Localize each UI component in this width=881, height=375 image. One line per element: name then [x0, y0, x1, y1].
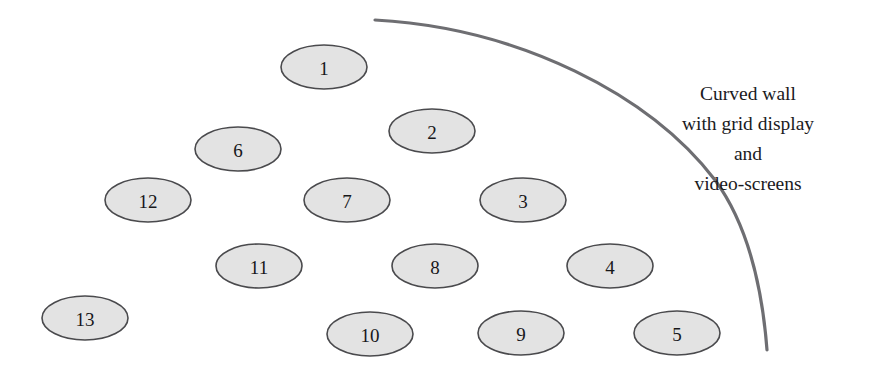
seat-ellipse[interactable]	[42, 296, 128, 340]
seat-9[interactable]: 9	[478, 311, 564, 355]
annotation-line-2: with grid display	[682, 113, 814, 134]
seat-ellipse[interactable]	[105, 178, 191, 222]
seat-11[interactable]: 11	[216, 244, 302, 288]
seat-8[interactable]: 8	[392, 244, 478, 288]
diagram-canvas: 12345678910111213 Curved wallwith grid d…	[0, 0, 881, 375]
seat-6[interactable]: 6	[195, 127, 281, 171]
seating-diagram: 12345678910111213 Curved wallwith grid d…	[0, 0, 881, 375]
seat-ellipse[interactable]	[480, 178, 566, 222]
seat-4[interactable]: 4	[567, 244, 653, 288]
seat-ellipse[interactable]	[478, 311, 564, 355]
seat-1[interactable]: 1	[281, 45, 367, 89]
seat-3[interactable]: 3	[480, 178, 566, 222]
annotation-line-1: Curved wall	[700, 83, 796, 104]
seat-ellipse[interactable]	[216, 244, 302, 288]
seat-ellipse[interactable]	[389, 109, 475, 153]
seat-ellipse[interactable]	[281, 45, 367, 89]
seat-ellipse[interactable]	[634, 311, 720, 355]
annotation-line-3: and	[734, 143, 762, 164]
seat-2[interactable]: 2	[389, 109, 475, 153]
seat-ellipse[interactable]	[392, 244, 478, 288]
seat-12[interactable]: 12	[105, 178, 191, 222]
seat-group: 12345678910111213	[42, 45, 720, 356]
seat-13[interactable]: 13	[42, 296, 128, 340]
seat-5[interactable]: 5	[634, 311, 720, 355]
seat-ellipse[interactable]	[195, 127, 281, 171]
seat-ellipse[interactable]	[304, 178, 390, 222]
seat-ellipse[interactable]	[567, 244, 653, 288]
wall-annotation: Curved wallwith grid displayandvideo-scr…	[682, 83, 814, 194]
seat-7[interactable]: 7	[304, 178, 390, 222]
seat-10[interactable]: 10	[327, 312, 413, 356]
annotation-line-4: video-screens	[694, 173, 801, 194]
seat-ellipse[interactable]	[327, 312, 413, 356]
